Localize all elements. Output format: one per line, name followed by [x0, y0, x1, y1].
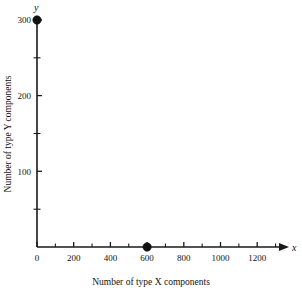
x-tick-label-600: 600 [140, 253, 154, 263]
x-tick-label-200: 200 [67, 253, 81, 263]
y-axis-variable-label: y [33, 2, 39, 13]
x-tick-label-0: 0 [35, 253, 40, 263]
x-tick-label-400: 400 [104, 253, 118, 263]
x-axis-arrowhead [279, 243, 289, 251]
data-point [33, 16, 41, 24]
y-axis-title: Number of type Y components [3, 75, 13, 192]
x-axis-variable-label: x [291, 242, 297, 253]
y-tick-label-100: 100 [18, 167, 32, 177]
data-point [143, 243, 151, 251]
data-series-points [33, 16, 152, 251]
chart-figure: 0 200 400 600 800 1000 1200 100 200 300 … [0, 0, 302, 296]
x-tick-label-1000: 1000 [212, 253, 231, 263]
x-tick-label-1200: 1200 [248, 253, 267, 263]
x-tick-label-800: 800 [177, 253, 191, 263]
y-tick-label-200: 200 [18, 91, 32, 101]
chart-canvas: 0 200 400 600 800 1000 1200 100 200 300 … [0, 0, 302, 296]
x-axis-title: Number of type X components [92, 277, 210, 287]
y-tick-label-300: 300 [18, 15, 32, 25]
